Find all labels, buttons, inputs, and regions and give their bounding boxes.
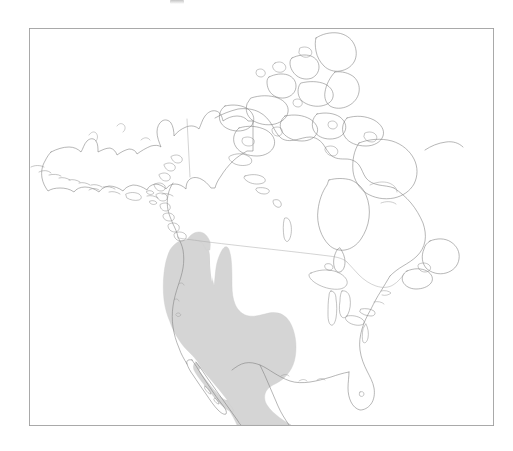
lake-nipigon bbox=[325, 264, 333, 271]
canadian-lakes-group bbox=[229, 154, 333, 271]
bc-coastal-islands bbox=[147, 155, 186, 241]
chesapeake-bay bbox=[362, 324, 368, 343]
north-america-map bbox=[29, 28, 494, 426]
alaska-yukon-border bbox=[187, 119, 190, 177]
page-text-remnant bbox=[170, 0, 184, 4]
distribution-range-group bbox=[163, 232, 296, 425]
lake-athabasca bbox=[256, 188, 269, 194]
alaska-interior-detail bbox=[89, 124, 150, 141]
northeast-coast-detail bbox=[374, 291, 391, 304]
ungava-coast-detail bbox=[370, 182, 397, 204]
james-bay-outline bbox=[334, 248, 345, 272]
newfoundland-outline bbox=[422, 239, 459, 274]
great-slave-lake bbox=[244, 175, 265, 184]
figure-root bbox=[0, 0, 513, 451]
lake-erie bbox=[346, 316, 365, 326]
prince-edward-island bbox=[418, 263, 431, 272]
lake-huron bbox=[339, 291, 350, 318]
map-frame bbox=[29, 28, 494, 426]
reindeer-lake bbox=[273, 200, 281, 208]
canadian-arctic-archipelago bbox=[219, 33, 417, 199]
northeast-sliver bbox=[425, 142, 463, 150]
us-canada-border-east bbox=[347, 262, 404, 287]
lake-okeechobee bbox=[359, 392, 364, 397]
lake-michigan bbox=[328, 291, 337, 325]
range-shaded-area bbox=[163, 235, 296, 425]
lake-winnipeg bbox=[283, 218, 291, 242]
us-east-coast bbox=[348, 276, 390, 410]
lake-superior bbox=[309, 270, 347, 289]
canada-north-coast bbox=[215, 109, 394, 188]
nova-scotia-outline bbox=[402, 269, 432, 289]
labrador-east-coast bbox=[390, 188, 425, 276]
great-lakes-group bbox=[309, 270, 375, 325]
aleutian-islands bbox=[31, 166, 173, 201]
